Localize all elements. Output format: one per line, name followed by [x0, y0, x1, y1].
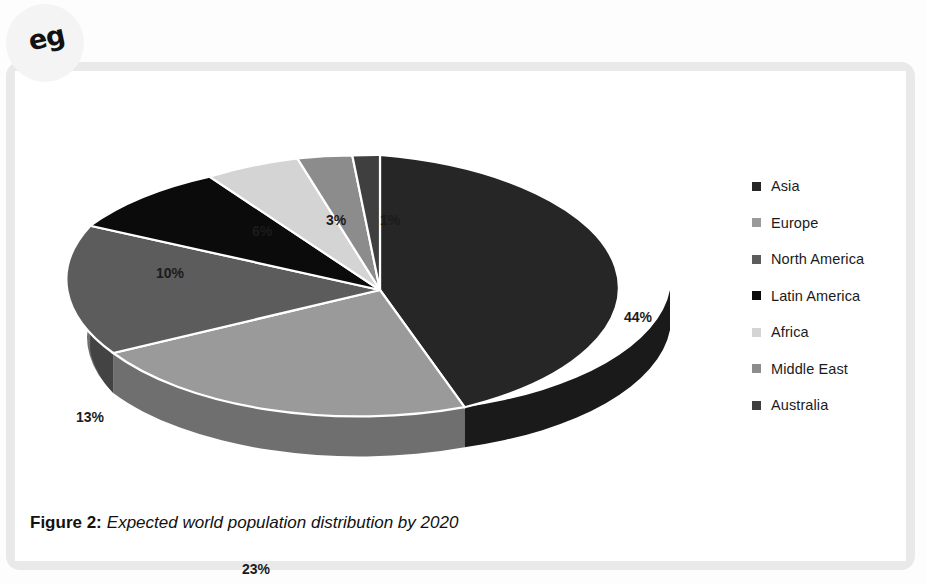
data-label-africa: 6% — [252, 223, 272, 239]
legend-swatch-icon-australia — [752, 401, 761, 410]
legend-swatch-icon-asia — [752, 182, 761, 191]
data-label-middle-east: 3% — [326, 212, 346, 228]
figure-caption-text: Expected world population distribution b… — [107, 513, 459, 532]
legend-label-asia: Asia — [771, 178, 800, 194]
eg-logo: eg — [26, 21, 66, 55]
scanned-page: eg — [0, 0, 927, 584]
legend-item-latin-america[interactable]: Latin America — [752, 278, 912, 315]
pie-chart-svg — [30, 95, 730, 495]
legend-swatch-icon-middle-east — [752, 364, 761, 373]
legend-item-asia[interactable]: Asia — [752, 168, 912, 205]
legend-label-europe: Europe — [771, 215, 818, 231]
legend-label-africa: Africa — [771, 324, 809, 340]
data-label-north-america: 13% — [76, 409, 104, 425]
figure-caption: Figure 2:Expected world population distr… — [30, 513, 458, 533]
legend-item-australia[interactable]: Australia — [752, 387, 912, 424]
legend-swatch-icon-latin-america — [752, 291, 761, 300]
figure-caption-label: Figure 2: — [30, 513, 102, 532]
pie-chart: 44% 23% 13% 10% 6% 3% 1% — [30, 95, 730, 495]
legend-label-latin-america: Latin America — [771, 288, 860, 304]
legend-swatch-icon-africa — [752, 328, 761, 337]
legend-swatch-icon-europe — [752, 218, 761, 227]
legend-label-middle-east: Middle East — [771, 361, 848, 377]
data-label-europe: 23% — [242, 561, 270, 577]
legend-item-north-america[interactable]: North America — [752, 241, 912, 278]
chart-legend: Asia Europe North America Latin America … — [752, 168, 912, 424]
legend-label-north-america: North America — [771, 251, 864, 267]
legend-item-africa[interactable]: Africa — [752, 314, 912, 351]
data-label-australia: 1% — [380, 212, 400, 228]
legend-label-australia: Australia — [771, 397, 828, 413]
data-label-latin-america: 10% — [156, 265, 184, 281]
data-label-asia: 44% — [624, 309, 652, 325]
legend-item-middle-east[interactable]: Middle East — [752, 351, 912, 388]
legend-swatch-icon-north-america — [752, 255, 761, 264]
legend-item-europe[interactable]: Europe — [752, 205, 912, 242]
